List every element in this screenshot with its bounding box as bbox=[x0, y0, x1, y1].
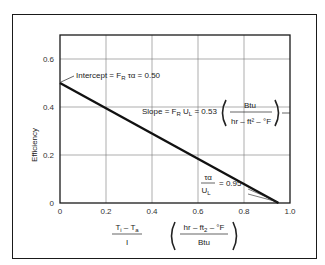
y-tick-0.2: 0.2 bbox=[43, 151, 55, 160]
slope-annotation: Slope = FR UL = 0.53 bbox=[142, 107, 217, 117]
y-tick-0.4: 0.4 bbox=[43, 103, 55, 112]
x-tick-0.4: 0.4 bbox=[146, 207, 158, 216]
x-tick-0.6: 0.6 bbox=[192, 207, 204, 216]
x-tick-0.8: 0.8 bbox=[238, 207, 250, 216]
intercept-annotation: Intercept = FR τα = 0.50 bbox=[76, 71, 161, 81]
y-tick-0.6: 0.6 bbox=[43, 55, 55, 64]
x-unit-left-paren bbox=[172, 222, 176, 250]
x-label-denominator: I bbox=[126, 238, 128, 247]
x-tick-0: 0 bbox=[58, 207, 63, 216]
y-tick-0: 0 bbox=[50, 199, 55, 208]
xint-denominator: UL bbox=[201, 186, 211, 196]
x-unit-numerator: hr – ft2 – °F bbox=[184, 223, 225, 233]
x-label-numerator: Ti – Ta bbox=[115, 223, 139, 233]
x-unit-denominator: Btu bbox=[198, 238, 210, 247]
x-tick-1.0: 1.0 bbox=[284, 207, 296, 216]
slope-unit-denominator: hr – ft² – °F bbox=[231, 117, 271, 126]
x-tick-0.2: 0.2 bbox=[100, 207, 112, 216]
slope-right-paren bbox=[275, 100, 279, 126]
xint-numerator: τα bbox=[204, 173, 212, 182]
slope-left-paren bbox=[223, 100, 227, 126]
y-axis-label: Efficiency bbox=[30, 128, 39, 162]
slope-unit-numerator: Btu bbox=[244, 101, 256, 110]
efficiency-chart: 0 0.2 0.4 0.6 0 0.2 0.4 0.6 0.8 1.0 Effi… bbox=[0, 0, 325, 265]
x-unit-right-paren bbox=[233, 222, 237, 250]
xint-value: = 0.95 bbox=[219, 179, 242, 188]
